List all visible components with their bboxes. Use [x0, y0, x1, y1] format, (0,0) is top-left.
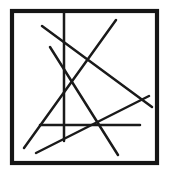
figure-background [0, 0, 169, 178]
line-figure-canvas: Square frame with six intersecting strai… [0, 0, 169, 178]
line-figure-svg [0, 0, 169, 178]
